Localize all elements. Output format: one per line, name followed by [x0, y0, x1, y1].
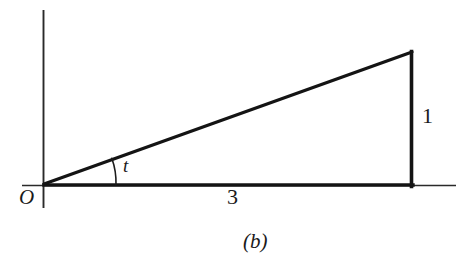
- origin-label: O: [19, 187, 34, 208]
- height-length-label: 1: [422, 105, 433, 127]
- figure-panel: O t 3 1 (b): [0, 0, 475, 273]
- angle-label-t: t: [123, 156, 128, 175]
- figure-caption: (b): [243, 231, 268, 252]
- triangle-diagram-svg: [0, 0, 475, 273]
- base-length-label: 3: [227, 186, 238, 208]
- angle-arc: [112, 158, 116, 185]
- triangle-hypotenuse-segment: [44, 52, 412, 184]
